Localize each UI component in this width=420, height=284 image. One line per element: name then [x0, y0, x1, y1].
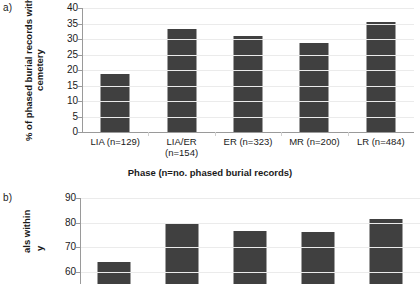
gridline: [80, 247, 420, 248]
panel-a-x-tick-labels: LIA (n=129)LIA/ER(n=154)ER (n=323)MR (n=…: [82, 136, 414, 158]
x-tick-label-line: (n=154): [148, 147, 214, 158]
y-tick-mark: [78, 55, 82, 56]
panel-a-tag: a): [3, 2, 12, 13]
x-tick-label: LIA/ER(n=154): [148, 136, 214, 158]
y-tick-mark: [78, 24, 82, 25]
y-tick-label: 40: [67, 3, 78, 13]
y-tick-mark: [76, 223, 80, 224]
y-tick-label: 25: [67, 50, 78, 60]
gridline: [80, 198, 420, 199]
bar: [234, 36, 263, 132]
y-tick-label: 20: [67, 65, 78, 75]
x-tick-label-line: LIA (n=129): [82, 136, 148, 147]
gridline: [80, 272, 420, 273]
y-axis-line: [80, 198, 81, 284]
panel-b-y-axis-title-line1: als within: [22, 163, 32, 253]
panel-a-y-axis-title-line1: % of phased burial records with: [24, 3, 34, 141]
panel-a-y-tick-labels: 4035302520151050: [56, 8, 78, 132]
y-tick-mark: [78, 101, 82, 102]
x-tick-label-line: LIA/ER: [148, 136, 214, 147]
x-tick-label: LIA (n=129): [82, 136, 148, 158]
y-tick-label: 10: [67, 96, 78, 106]
y-axis-line: [82, 8, 83, 132]
y-tick-mark: [78, 117, 82, 118]
y-tick-mark: [76, 272, 80, 273]
panel-a-y-axis-title-line2: cemetery: [35, 20, 45, 120]
bar: [101, 74, 130, 132]
gridline: [80, 223, 420, 224]
y-tick-mark: [78, 86, 82, 87]
gridline: [82, 55, 414, 56]
gridline: [82, 70, 414, 71]
gridline: [82, 39, 414, 40]
panel-a-x-axis-title: Phase (n=no. phased burial records): [0, 167, 420, 178]
y-tick-label: 35: [67, 19, 78, 29]
x-tick-label: ER (n=323): [215, 136, 281, 158]
y-tick-mark: [76, 198, 80, 199]
gridline: [82, 86, 414, 87]
panel-b-y-tick-labels: 90807060: [54, 198, 76, 284]
gridline: [82, 101, 414, 102]
bar: [370, 219, 403, 284]
panel-b-tag: b): [3, 192, 12, 203]
y-tick-label: 15: [67, 81, 78, 91]
y-tick-mark: [76, 247, 80, 248]
panel-b: b) als within y 90807060: [0, 185, 420, 254]
y-tick-label: 60: [65, 267, 76, 277]
y-tick-label: 30: [67, 34, 78, 44]
bar: [300, 43, 329, 132]
panel-a: a) % of phased burial records with cemet…: [0, 0, 420, 185]
panel-b-plot-area: [80, 198, 420, 284]
gridline: [82, 117, 414, 118]
x-tick-label: LR (n=484): [348, 136, 414, 158]
x-tick-label-line: MR (n=200): [281, 136, 347, 147]
bar: [98, 262, 131, 284]
gridline: [82, 8, 414, 9]
y-tick-mark: [78, 8, 82, 9]
y-tick-label: 70: [65, 242, 76, 252]
y-tick-mark: [78, 70, 82, 71]
bar: [302, 232, 335, 284]
panel-b-y-axis-title-line2: y: [35, 161, 45, 251]
y-tick-mark: [78, 39, 82, 40]
panel-a-plot-area: [82, 8, 414, 132]
x-tick-label-line: LR (n=484): [348, 136, 414, 147]
x-tick-label: MR (n=200): [281, 136, 347, 158]
y-tick-label: 90: [65, 193, 76, 203]
x-tick-label-line: ER (n=323): [215, 136, 281, 147]
gridline: [82, 24, 414, 25]
x-axis-line: [82, 132, 414, 133]
y-tick-label: 80: [65, 218, 76, 228]
bar: [166, 224, 199, 284]
bar: [234, 231, 267, 284]
